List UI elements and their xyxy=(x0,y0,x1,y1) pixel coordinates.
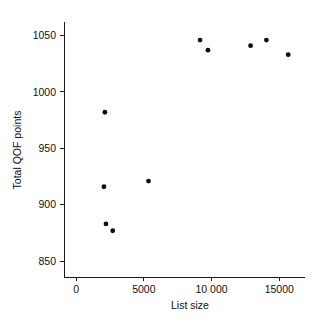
data-point xyxy=(264,38,269,43)
y-tick-label: 850 xyxy=(38,255,56,267)
axes-group xyxy=(64,22,305,277)
data-point xyxy=(104,222,109,227)
x-tick-label: 5000 xyxy=(132,283,156,295)
y-tick-label: 1000 xyxy=(33,86,57,98)
y-tick-label: 1050 xyxy=(33,29,57,41)
data-point xyxy=(198,38,203,43)
y-tick-label: 950 xyxy=(38,142,56,154)
x-tick-label: 0 xyxy=(73,283,79,295)
data-point xyxy=(102,110,107,115)
x-tick-label: 10 000 xyxy=(196,283,228,295)
data-point xyxy=(206,48,211,53)
x-axis-ticks: 0500010 00015000 xyxy=(73,277,294,295)
data-point xyxy=(102,184,107,189)
data-point xyxy=(286,52,291,57)
y-axis-title: Total QOF points xyxy=(11,111,23,190)
plot-canvas: 85090095010001050 0500010 00015000 List … xyxy=(0,0,321,331)
data-point xyxy=(146,179,151,184)
data-point xyxy=(248,43,253,48)
data-point xyxy=(110,228,115,233)
x-tick-label: 15000 xyxy=(265,283,294,295)
data-points-group xyxy=(102,38,291,233)
scatter-plot-figure: 85090095010001050 0500010 00015000 List … xyxy=(0,0,321,331)
y-axis-ticks: 85090095010001050 xyxy=(33,29,64,267)
y-tick-label: 900 xyxy=(38,198,56,210)
x-axis-title: List size xyxy=(171,299,209,311)
